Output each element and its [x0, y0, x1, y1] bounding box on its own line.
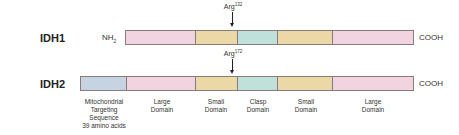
idh2-mts-domain: [80, 76, 127, 91]
mts-label-line: 39 amino acids: [72, 122, 136, 130]
mts-label-line: Sequence: [72, 114, 136, 122]
idh2-small-domain-1: [196, 76, 238, 91]
idh1-c-terminus: COOH: [419, 33, 443, 42]
label-line: Small: [285, 98, 327, 106]
label-line: Clasp: [238, 98, 278, 106]
small-domain-label-1: Small Domain: [196, 98, 236, 114]
label-line: Domain: [285, 106, 327, 114]
idh1-protein-bar: [125, 30, 414, 45]
label-line: Domain: [140, 106, 184, 114]
label-line: Large: [140, 98, 184, 106]
arrow-down-icon: [230, 70, 234, 74]
clasp-domain-label: Clasp Domain: [238, 98, 278, 114]
mts-label-line: Mitochondrial: [72, 98, 136, 106]
idh1-large-domain-c: [333, 30, 414, 45]
mutation-residue: Arg: [224, 50, 235, 57]
n-term-subscript: 2: [114, 38, 117, 44]
idh2-small-domain-2: [278, 76, 333, 91]
label-line: Large: [350, 98, 396, 106]
idh2-clasp-domain: [238, 76, 278, 91]
idh2-mutation-label: Arg172: [220, 49, 246, 57]
mutation-residue: Arg: [224, 3, 235, 10]
idh2-label: IDH2: [40, 78, 65, 90]
idh1-n-terminus: NH2: [102, 33, 116, 44]
mts-label: Mitochondrial Targeting Sequence 39 amin…: [72, 98, 136, 130]
idh1-small-domain-1: [196, 30, 238, 45]
large-domain-label-2: Large Domain: [350, 98, 396, 114]
large-domain-label-1: Large Domain: [140, 98, 184, 114]
label-line: Domain: [196, 106, 236, 114]
idh2-large-domain-n: [127, 76, 196, 91]
label-line: Domain: [350, 106, 396, 114]
idh2-c-terminus: COOH: [419, 79, 443, 88]
label-line: Small: [196, 98, 236, 106]
idh2-protein-bar: [80, 76, 414, 91]
idh1-clasp-domain: [238, 30, 278, 45]
label-line: Domain: [238, 106, 278, 114]
idh1-large-domain-n: [125, 30, 196, 45]
idh2-large-domain-c: [333, 76, 414, 91]
n-term-text: NH: [102, 33, 114, 42]
idh1-mutation-label: Arg132: [220, 2, 246, 10]
small-domain-label-2: Small Domain: [285, 98, 327, 114]
idh1-label: IDH1: [40, 32, 65, 44]
idh1-small-domain-2: [278, 30, 333, 45]
mutation-position: 132: [235, 2, 243, 7]
arrow-down-icon: [230, 23, 234, 27]
mts-label-line: Targeting: [72, 106, 136, 114]
mutation-position: 172: [235, 49, 243, 54]
